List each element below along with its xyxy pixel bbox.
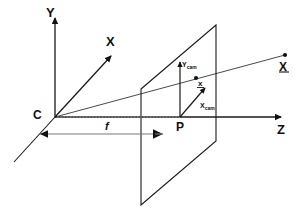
world-point-label: X [279, 60, 287, 74]
y-axis-label: Y [46, 5, 55, 20]
x-axis-label: X [106, 34, 115, 49]
image-point-label: x [198, 79, 203, 88]
y-cam-label: Ycam [182, 61, 197, 70]
y-cam-sub: cam [187, 64, 198, 70]
image-plane [141, 25, 216, 205]
pinhole-camera-diagram: Y X Z C P x X f Ycam Xcam [0, 0, 302, 215]
camera-center-label: C [33, 108, 42, 122]
focal-length-dimension [40, 129, 163, 139]
principal-point-label: P [176, 120, 184, 134]
world-point-dot [283, 53, 287, 57]
focal-length-label: f [105, 120, 110, 132]
x-cam-label: Xcam [200, 102, 215, 111]
x-cam-sub: cam [205, 105, 216, 111]
z-axis-label: Z [277, 122, 285, 137]
x-axis [14, 56, 111, 162]
svg-text:Ycam: Ycam [182, 61, 197, 70]
svg-text:Xcam: Xcam [200, 102, 215, 111]
diagram-canvas: Y X Z C P x X f Ycam Xcam [0, 0, 302, 215]
